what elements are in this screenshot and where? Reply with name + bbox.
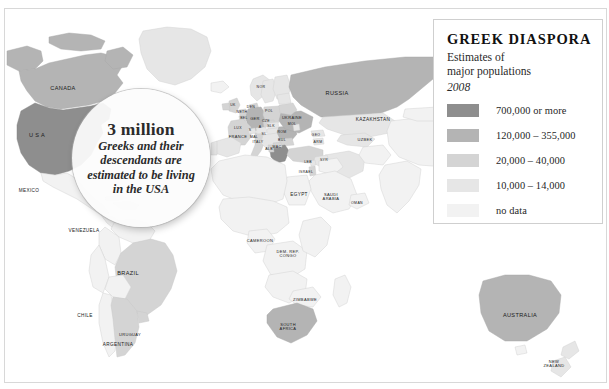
legend-year: 2008 bbox=[447, 80, 592, 95]
country-baltics bbox=[277, 93, 291, 104]
legend-subtitle-line2: major populations bbox=[447, 65, 592, 79]
country-moldova bbox=[293, 124, 300, 131]
legend-swatch bbox=[447, 154, 479, 167]
legend-panel: GREEK DIASPORA Estimates of major popula… bbox=[433, 19, 603, 224]
legend-row: no data bbox=[447, 200, 592, 221]
country-switzerland bbox=[248, 128, 256, 134]
legend-label: no data bbox=[496, 205, 527, 216]
legend-row: 20,000 – 40,000 bbox=[447, 150, 592, 171]
legend-swatch bbox=[447, 129, 479, 142]
country-armenia bbox=[313, 138, 324, 145]
country-egypt bbox=[283, 175, 311, 205]
legend-label: 10,000 – 14,000 bbox=[496, 180, 565, 191]
legend-title: GREEK DIASPORA bbox=[447, 32, 592, 48]
country-macedonia bbox=[273, 142, 282, 148]
legend-swatch bbox=[447, 104, 479, 117]
usa-callout-bubble: 3 million Greeks and their descendants a… bbox=[72, 89, 210, 227]
legend-row: 10,000 – 14,000 bbox=[447, 175, 592, 196]
country-portugal bbox=[211, 141, 217, 155]
legend-swatch bbox=[447, 204, 479, 217]
legend-row: 120,000 – 355,000 bbox=[447, 125, 592, 146]
legend-label: 20,000 – 40,000 bbox=[496, 155, 565, 166]
legend-entries: 700,000 or more120,000 – 355,00020,000 –… bbox=[447, 100, 592, 221]
country-georgia bbox=[311, 130, 325, 137]
country-israel bbox=[309, 166, 316, 176]
map-frame: .c0{fill:#f2f2f2;stroke:#cfcfcf;stroke-w… bbox=[4, 8, 607, 383]
legend-subtitle-line1: Estimates of bbox=[447, 51, 592, 65]
callout-headline: 3 million bbox=[107, 120, 174, 138]
legend-label: 700,000 or more bbox=[496, 105, 566, 116]
island-tasmania bbox=[515, 345, 527, 355]
callout-body: Greeks and their descendants are estimat… bbox=[72, 139, 210, 197]
country-albania bbox=[268, 145, 274, 152]
legend-label: 120,000 – 355,000 bbox=[496, 130, 576, 141]
legend-swatch bbox=[447, 179, 479, 192]
infographic-root: .c0{fill:#f2f2f2;stroke:#cfcfcf;stroke-w… bbox=[0, 0, 609, 389]
country-austria bbox=[256, 127, 267, 134]
legend-row: 700,000 or more bbox=[447, 100, 592, 121]
country-lebanon bbox=[310, 160, 316, 166]
country-ireland bbox=[222, 103, 230, 110]
